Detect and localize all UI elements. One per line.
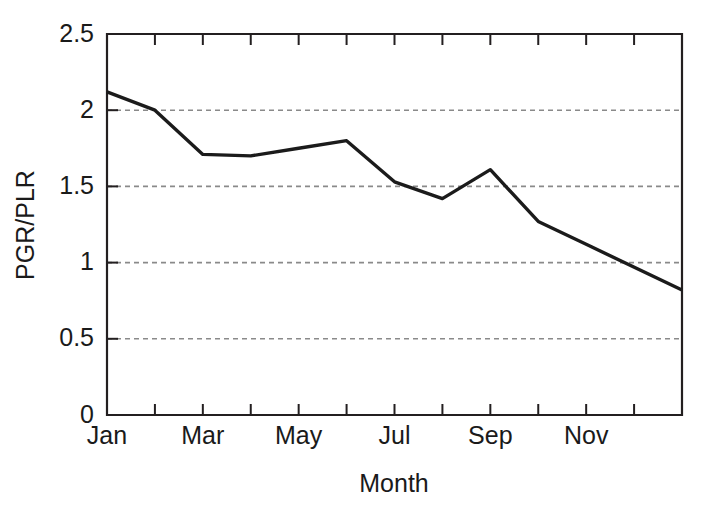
x-axis-ticks-top xyxy=(155,34,634,45)
x-tick-label: May xyxy=(275,421,323,449)
y-tick-label: 1 xyxy=(80,247,94,275)
y-tick-label: 2.5 xyxy=(59,19,94,47)
x-axis-ticks xyxy=(155,404,634,415)
x-tick-label: Sep xyxy=(468,421,512,449)
x-axis-title: Month xyxy=(359,469,428,497)
line-chart: 00.511.522.5 JanMarMayJulSepNov Month PG… xyxy=(0,0,715,505)
plot-frame xyxy=(107,34,682,415)
x-tick-label: Mar xyxy=(181,421,224,449)
y-axis-tick-labels: 00.511.522.5 xyxy=(59,19,94,428)
x-tick-label: Jul xyxy=(379,421,411,449)
x-tick-label: Nov xyxy=(564,421,609,449)
y-tick-label: 0.5 xyxy=(59,323,94,351)
y-tick-label: 2 xyxy=(80,95,94,123)
data-series-line xyxy=(107,92,682,290)
x-tick-label: Jan xyxy=(87,421,127,449)
y-tick-label: 1.5 xyxy=(59,171,94,199)
chart-figure: 00.511.522.5 JanMarMayJulSepNov Month PG… xyxy=(0,0,715,505)
x-axis-tick-labels: JanMarMayJulSepNov xyxy=(87,421,609,449)
y-axis-title: PGR/PLR xyxy=(11,170,39,280)
